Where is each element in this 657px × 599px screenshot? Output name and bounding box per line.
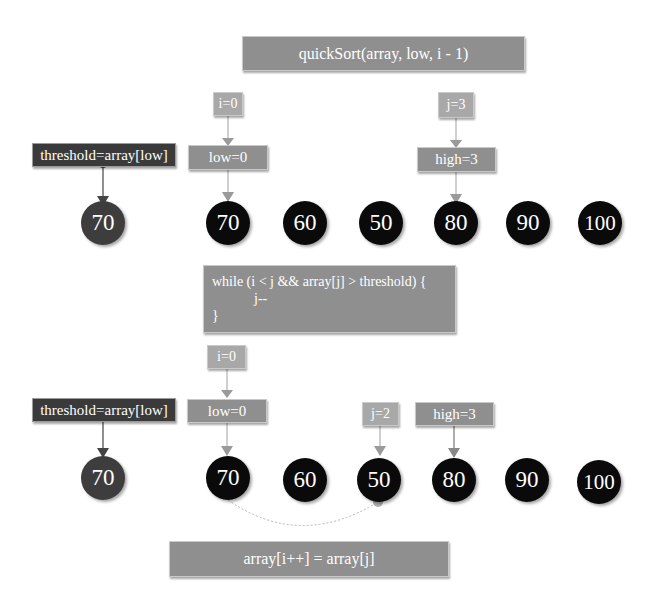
high-label: high=3 [417,147,496,172]
array-node-3: 80 [432,458,476,502]
array-node-3: 80 [434,201,478,245]
code-line-1: while (i < j && array[j] > threshold) { [212,274,427,289]
j-pointer: j=2 [362,402,399,426]
array-node-5: 100 [577,460,621,504]
code-line-2: j-- [212,291,267,306]
array-node-5: 100 [578,201,622,245]
array-node-1: 60 [283,201,327,245]
array-node-0: 70 [206,456,250,500]
j-pointer: j=3 [438,92,474,118]
array-node-0: 70 [206,201,250,245]
array-node-4: 90 [506,201,550,245]
array-node-2: 50 [359,201,403,245]
assignment-caption: array[i++] = array[j] [169,541,449,577]
code-line-3: } [212,308,219,323]
step2-arrows [97,368,460,526]
high-label: high=3 [415,402,494,426]
i-pointer: i=0 [213,92,243,116]
pivot-node: 70 [81,456,125,500]
low-label: low=0 [188,145,268,170]
while-loop-code: while (i < j && array[j] > threshold) { … [203,265,456,333]
array-node-4: 90 [505,458,549,502]
array-node-2: 50 [357,458,401,502]
array-node-1: 60 [283,458,327,502]
recursive-call-caption: quickSort(array, low, i - 1) [242,36,525,71]
low-label: low=0 [187,399,267,423]
pivot-node: 70 [81,201,125,245]
threshold-label: threshold=array[low] [32,143,176,167]
i-pointer: i=0 [207,345,246,369]
threshold-label: threshold=array[low] [32,398,176,422]
